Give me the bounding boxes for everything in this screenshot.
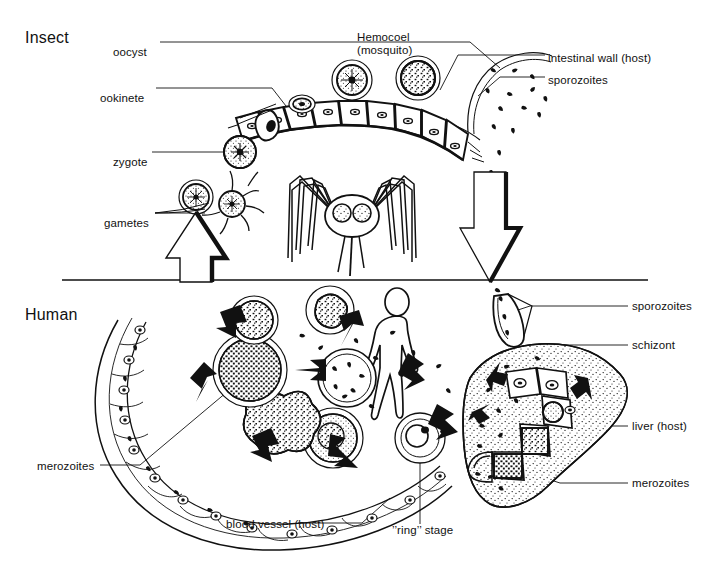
leader-intestinal-wall (440, 55, 545, 90)
label-gametes: gametes (104, 217, 149, 229)
label-schizont: schizont (632, 339, 675, 351)
label-merozoites-blood: merozoites (37, 460, 94, 472)
transmission-up-arrow (166, 212, 226, 282)
label-zygote: zygote (113, 156, 147, 168)
human-figure (365, 288, 417, 419)
malaria-life-cycle-figure: Insect Human oocyst ookinete zygote game… (0, 0, 708, 566)
transmission-down-arrow (460, 172, 520, 282)
mosquito-figure (288, 176, 416, 276)
oocyst-young (332, 60, 372, 100)
merozoite-filled-rbc (318, 349, 376, 407)
label-hemocoel: Hemocoel (357, 31, 410, 43)
oocyst-small-early (289, 95, 315, 113)
label-sporozoites-human: sporozoites (632, 300, 692, 312)
label-blood-vessel: blood vessel (host) (226, 518, 324, 530)
label-intestinal-wall: intestinal wall (host) (548, 52, 651, 64)
zygote-cell (224, 136, 256, 168)
label-sporozoites-insect: sporozoites (548, 74, 608, 86)
label-liver-host: liver (host) (632, 420, 687, 432)
section-label-insect: Insect (25, 32, 69, 44)
sporozoite-injection (493, 287, 532, 346)
label-hemocoel-mosquito: (mosquito) (357, 44, 412, 56)
label-ring-stage: ’’ring’’ stage (392, 524, 453, 536)
salivary-duct-hint (468, 142, 484, 162)
leader-sporozoites-human (512, 306, 628, 312)
label-ookinete: ookinete (100, 92, 144, 104)
oocyst-mature (396, 56, 440, 100)
label-merozoites-liver: merozoites (632, 477, 689, 489)
section-label-human: Human (25, 309, 78, 321)
label-oocyst: oocyst (113, 46, 147, 58)
leader-oocyst (160, 42, 500, 68)
